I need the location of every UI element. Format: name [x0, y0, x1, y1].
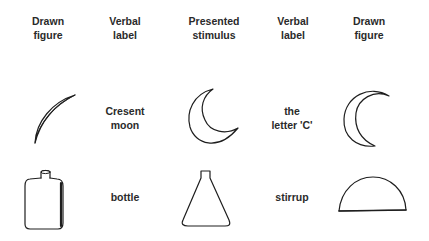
flask-icon [182, 171, 230, 226]
semicircle-icon [339, 177, 406, 211]
crescent-moon-icon [189, 89, 238, 143]
figures-canvas [0, 0, 429, 241]
bottle-icon [25, 170, 63, 229]
thin-crescent-icon [35, 95, 75, 143]
c-shaped-crescent-icon [344, 91, 389, 146]
